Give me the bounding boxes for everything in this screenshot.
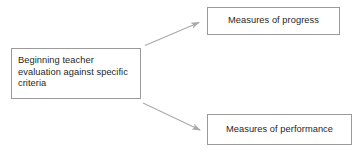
arrow-source-to-progress [145,23,199,46]
node-measures-of-progress-label: Measures of progress [208,8,339,34]
node-measures-of-performance-label: Measures of performance [208,115,351,144]
node-beginning-teacher-evaluation-label: Beginning teacher evaluation against spe… [12,49,140,90]
node-measures-of-performance: Measures of performance [207,114,352,145]
flowchart-canvas: Beginning teacher evaluation against spe… [0,0,357,155]
arrow-source-to-performance [143,103,200,130]
node-beginning-teacher-evaluation: Beginning teacher evaluation against spe… [11,48,141,99]
node-measures-of-progress: Measures of progress [207,7,340,35]
